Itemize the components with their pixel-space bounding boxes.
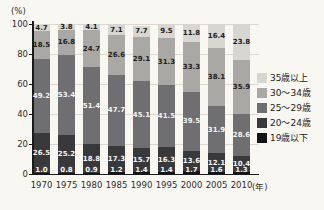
- legend-label: 19歳以下: [270, 131, 308, 144]
- bar-group-1990: 1.415.745.129.17.7: [133, 26, 150, 174]
- segment-value-label: 17.3: [108, 155, 125, 163]
- bar-segment: 9.5: [158, 24, 175, 38]
- segment-value-label: 16.4: [208, 32, 225, 40]
- segment-value-label: 13.6: [183, 157, 200, 165]
- y-tick-80: [29, 54, 32, 55]
- legend-swatch: [257, 103, 267, 113]
- segment-value-label: 45.1: [133, 111, 150, 119]
- legend-swatch: [257, 88, 267, 98]
- y-tick-0: [29, 174, 32, 175]
- bar-segment: 16.8: [58, 30, 75, 55]
- x-axis-line: [30, 174, 259, 176]
- legend-swatch: [257, 133, 267, 143]
- segment-value-label: 33.3: [183, 63, 200, 71]
- bar-segment: 11.8: [183, 24, 200, 42]
- bar-segment: 39.5: [183, 92, 200, 151]
- bar-segment: 4.1: [83, 24, 100, 30]
- segment-value-label: 35.9: [233, 83, 250, 91]
- y-tick-label-80: 80: [6, 49, 28, 59]
- bar-group-2000: 1.713.639.533.311.8: [183, 24, 200, 174]
- segment-value-label: 16.3: [158, 156, 175, 164]
- x-tick-label-2010: 2010: [227, 180, 257, 190]
- segment-value-label: 4.7: [35, 24, 47, 32]
- y-tick-100: [29, 24, 32, 25]
- segment-value-label: 15.7: [133, 156, 150, 164]
- legend-label: 20〜24歳: [270, 116, 311, 129]
- bar-segment: 23.8: [233, 24, 250, 60]
- segment-value-label: 53.4: [58, 91, 75, 99]
- segment-value-label: 24.7: [83, 45, 100, 53]
- bar-segment: 49.2: [33, 59, 50, 133]
- plot-area: 1.026.549.218.54.70.825.253.416.83.80.91…: [32, 24, 258, 174]
- segment-value-label: 7.1: [110, 26, 122, 34]
- segment-value-label: 25.2: [58, 150, 75, 158]
- bar-segment: 28.6: [233, 114, 250, 157]
- segment-value-label: 0.8: [60, 166, 72, 174]
- bar-group-1980: 0.918.851.424.74.1: [83, 24, 100, 174]
- segment-value-label: 0.9: [85, 166, 97, 174]
- y-tick-label-20: 20: [6, 139, 28, 149]
- bar-group-1995: 1.416.341.531.39.5: [158, 24, 175, 174]
- legend: 35歳以上30〜34歳25〜29歳20〜24歳19歳以下: [257, 70, 311, 145]
- bar-segment: 16.4: [208, 24, 225, 49]
- legend-label: 25〜29歳: [270, 101, 311, 114]
- segment-value-label: 31.9: [208, 126, 225, 134]
- bar-segment: 47.7: [108, 75, 125, 147]
- segment-value-label: 26.6: [108, 51, 125, 59]
- bar-segment: 38.1: [208, 48, 225, 105]
- bar-segment: 24.7: [83, 30, 100, 67]
- legend-item: 20〜24歳: [257, 115, 311, 130]
- legend-label: 35歳以上: [270, 71, 308, 84]
- segment-value-label: 28.6: [233, 131, 250, 139]
- bar-segment: 51.4: [83, 67, 100, 144]
- y-tick-20: [29, 144, 32, 145]
- bar-segment: 35.9: [233, 60, 250, 114]
- bar-group-2010: 1.310.428.635.923.8: [233, 24, 250, 174]
- y-tick-label-40: 40: [6, 109, 28, 119]
- segment-value-label: 38.1: [208, 73, 225, 81]
- legend-item: 19歳以下: [257, 130, 311, 145]
- bar-group-1975: 0.825.253.416.83.8: [58, 24, 75, 174]
- bar-segment: 33.3: [183, 42, 200, 92]
- segment-value-label: 41.5: [158, 112, 175, 120]
- segment-value-label: 51.4: [83, 102, 100, 110]
- legend-label: 30〜34歳: [270, 86, 311, 99]
- segment-value-label: 16.8: [58, 38, 75, 46]
- bar-group-1985: 1.217.347.726.67.1: [108, 24, 125, 174]
- bar-group-2005: 1.612.131.938.116.4: [208, 24, 225, 174]
- y-tick-label-60: 60: [6, 79, 28, 89]
- bar-segment: 41.5: [158, 85, 175, 147]
- bar-segment: 18.5: [33, 31, 50, 59]
- segment-value-label: 18.5: [33, 41, 50, 49]
- segment-value-label: 1.6: [210, 166, 222, 174]
- segment-value-label: 4.1: [85, 23, 97, 31]
- segment-value-label: 23.8: [233, 38, 250, 46]
- legend-item: 35歳以上: [257, 70, 311, 85]
- segment-value-label: 3.8: [60, 23, 72, 31]
- bar-segment: 26.6: [108, 35, 125, 75]
- bar-segment: 45.1: [133, 81, 150, 149]
- legend-item: 30〜34歳: [257, 85, 311, 100]
- y-tick-label-0: 0: [6, 169, 28, 179]
- legend-item: 25〜29歳: [257, 100, 311, 115]
- bar-segment: 3.8: [58, 24, 75, 30]
- segment-value-label: 11.8: [183, 29, 200, 37]
- segment-value-label: 7.7: [135, 27, 147, 35]
- segment-value-label: 31.3: [158, 58, 175, 66]
- y-tick-40: [29, 114, 32, 115]
- segment-value-label: 1.7: [185, 166, 197, 174]
- bar-segment: 7.1: [108, 24, 125, 35]
- y-axis-unit-label: (%): [11, 6, 26, 16]
- segment-value-label: 47.7: [108, 106, 125, 114]
- bar-segment: 31.3: [158, 38, 175, 85]
- segment-value-label: 49.2: [33, 92, 50, 100]
- segment-value-label: 1.0: [35, 166, 47, 174]
- legend-swatch: [257, 73, 267, 83]
- legend-swatch: [257, 118, 267, 128]
- segment-value-label: 39.5: [183, 117, 200, 125]
- y-tick-label-100: 100: [6, 19, 28, 29]
- bar-segment: 4.7: [33, 24, 50, 31]
- y-tick-60: [29, 84, 32, 85]
- segment-value-label: 9.5: [160, 27, 172, 35]
- segment-value-label: 1.2: [110, 166, 122, 174]
